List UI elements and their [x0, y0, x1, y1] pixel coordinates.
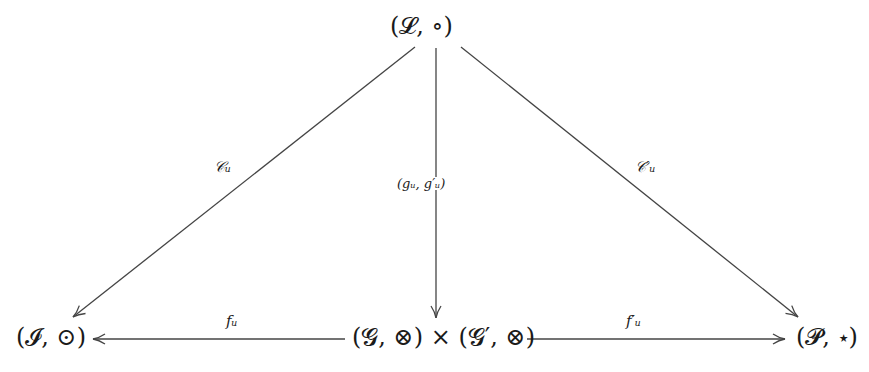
- arrow-L-to-I: [73, 47, 415, 317]
- node-I: (𝓘, ⊙): [16, 325, 86, 349]
- node-P: (𝓟, ⋆): [796, 325, 858, 349]
- node-L: (𝓛, ∘): [390, 14, 453, 38]
- arrow-L-to-P: [461, 47, 798, 317]
- label-f-prime-u: f′ᵤ: [626, 314, 641, 329]
- label-f-u: fᵤ: [226, 314, 238, 329]
- node-G: (𝓖, ⊗) × (𝓖′, ⊗): [352, 325, 535, 349]
- label-C-prime-u: 𝒞′ᵤ: [635, 160, 655, 175]
- label-g-pair: (gᵤ, g′ᵤ): [396, 177, 446, 190]
- label-C-u: 𝒞ᵤ: [214, 160, 231, 175]
